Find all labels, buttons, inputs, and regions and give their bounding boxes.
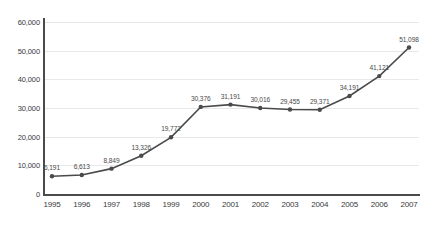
data-point-label: 51,098 <box>399 36 419 43</box>
data-point-marker <box>50 174 54 178</box>
data-point-marker <box>347 94 351 98</box>
data-point-label: 29,371 <box>310 98 330 105</box>
data-point-label: 31,191 <box>221 93 241 100</box>
data-point-label: 30,376 <box>191 95 211 102</box>
data-point-marker <box>407 45 411 49</box>
data-point-marker <box>169 135 173 139</box>
line-chart: 010,00020,00030,00040,00050,00060,000 19… <box>0 0 435 233</box>
data-point-marker <box>109 166 113 170</box>
data-point-marker <box>139 154 143 158</box>
data-point-marker <box>258 106 262 110</box>
data-point-label: 8,849 <box>103 157 119 164</box>
data-point-label: 41,121 <box>369 64 389 71</box>
data-point-marker <box>228 102 232 106</box>
data-point-label: 6,613 <box>74 163 90 170</box>
data-point-label: 29,455 <box>280 98 300 105</box>
data-point-marker <box>199 105 203 109</box>
data-point-marker <box>318 108 322 112</box>
data-point-marker <box>80 173 84 177</box>
data-point-marker <box>377 74 381 78</box>
data-point-marker <box>288 107 292 111</box>
data-point-label: 34,191 <box>340 84 360 91</box>
data-point-label: 6,191 <box>44 164 60 171</box>
data-point-label: 13,326 <box>131 144 151 151</box>
data-point-label: 30,016 <box>250 96 270 103</box>
data-series <box>0 0 435 233</box>
data-point-label: 19,772 <box>161 125 181 132</box>
